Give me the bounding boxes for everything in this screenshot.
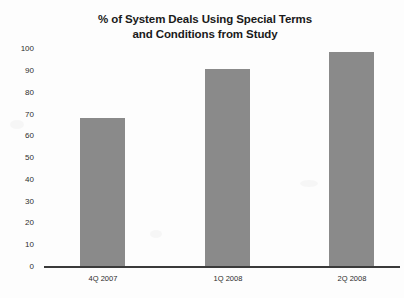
x-label-2q-2008: 2Q 2008 <box>307 274 397 283</box>
x-axis-line <box>44 266 400 268</box>
chart-title: % of System Deals Using Special Terms an… <box>40 12 370 42</box>
scan-artifact <box>10 120 24 129</box>
y-tick-30: 30 <box>0 198 34 206</box>
chart-title-line-2: and Conditions from Study <box>40 27 370 42</box>
y-tick-90: 90 <box>0 67 34 75</box>
y-tick-20: 20 <box>0 219 34 227</box>
y-tick-100: 100 <box>0 45 34 53</box>
bar-2q-2008 <box>329 52 374 267</box>
chart-title-line-1: % of System Deals Using Special Terms <box>40 12 370 27</box>
y-tick-70: 70 <box>0 111 34 119</box>
y-tick-10: 10 <box>0 241 34 249</box>
y-tick-80: 80 <box>0 89 34 97</box>
x-label-4q-2007: 4Q 2007 <box>58 274 148 283</box>
bar-1q-2008 <box>205 69 250 267</box>
y-tick-40: 40 <box>0 176 34 184</box>
y-axis: 100 90 80 70 60 50 40 30 20 10 0 <box>0 0 44 298</box>
y-tick-0: 0 <box>0 263 34 271</box>
plot-area <box>44 45 400 267</box>
x-label-1q-2008: 1Q 2008 <box>183 274 273 283</box>
y-tick-60: 60 <box>0 132 34 140</box>
scan-artifact <box>300 180 318 187</box>
bar-chart: % of System Deals Using Special Terms an… <box>0 0 404 298</box>
scan-artifact <box>150 230 162 238</box>
bar-4q-2007 <box>80 118 125 267</box>
y-tick-50: 50 <box>0 154 34 162</box>
